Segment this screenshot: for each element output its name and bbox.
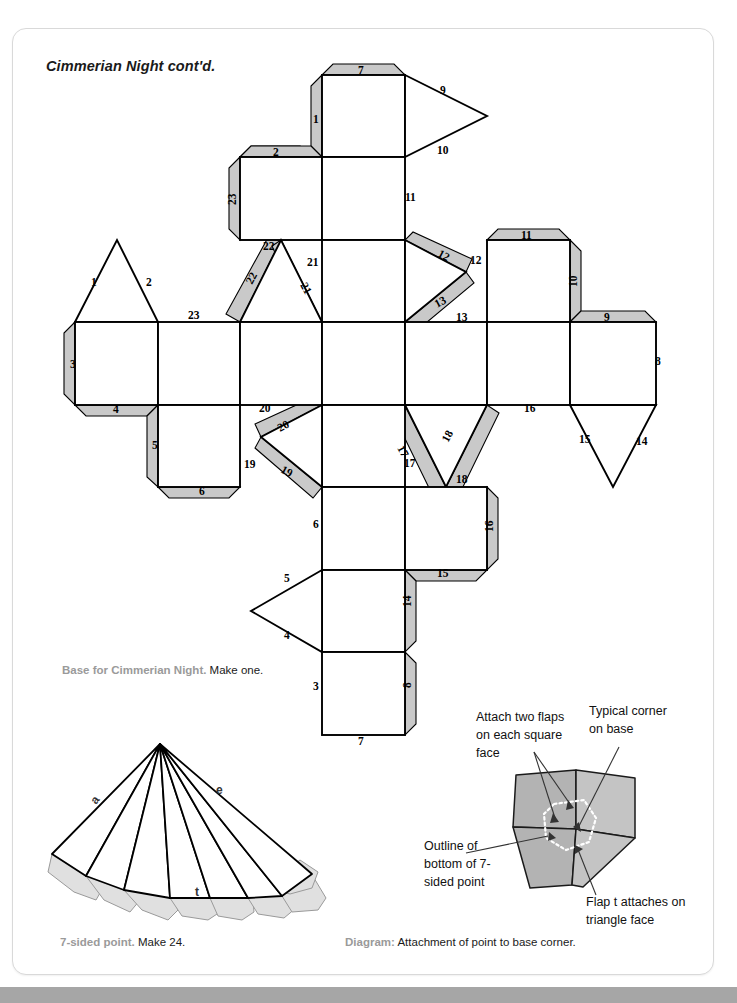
annotation-outline-bottom: Outline of bottom of 7- sided point — [424, 839, 491, 889]
svg-text:face: face — [476, 746, 500, 760]
svg-text:triangle face: triangle face — [586, 913, 654, 927]
svg-text:on each square: on each square — [476, 728, 562, 742]
annotation-flap-t: Flap t attaches on triangle face — [586, 895, 685, 927]
attach-face-square-right — [576, 770, 635, 838]
attach-face-bottom-left — [513, 827, 576, 888]
attachment-diagram: Attach two flaps on each square face Typ… — [0, 0, 737, 1003]
svg-text:Outline of: Outline of — [424, 839, 478, 853]
annotation-typical-corner: Typical corner on base — [589, 704, 667, 736]
bottom-bar — [0, 987, 737, 1003]
svg-text:sided point: sided point — [424, 875, 485, 889]
caption-diagram-bold: Diagram: — [345, 936, 395, 948]
annotation-attach-two-flaps: Attach two flaps on each square face — [476, 710, 564, 760]
svg-text:Flap t attaches on: Flap t attaches on — [586, 895, 685, 909]
caption-diagram: Diagram: Attachment of point to base cor… — [345, 936, 576, 948]
svg-text:Typical corner: Typical corner — [589, 704, 667, 718]
page-root: Cimmerian Night cont'd. — [0, 0, 737, 1003]
svg-text:bottom of 7-: bottom of 7- — [424, 857, 491, 871]
svg-text:Attach two flaps: Attach two flaps — [476, 710, 564, 724]
svg-text:on base: on base — [589, 722, 634, 736]
caption-diagram-rest: Attachment of point to base corner. — [395, 936, 576, 948]
